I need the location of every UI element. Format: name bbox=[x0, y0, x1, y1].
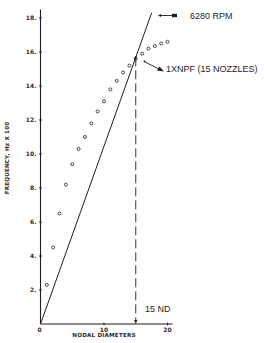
data-points bbox=[45, 40, 169, 286]
y-tick-label: 2. bbox=[30, 286, 36, 293]
rpm-arrow-icon bbox=[158, 14, 177, 17]
data-point-circle bbox=[122, 71, 125, 74]
y-axis-title: FREQUENCY, Hz X 100 bbox=[4, 122, 10, 195]
y-tick-label: 8. bbox=[30, 184, 36, 191]
data-point-circle bbox=[141, 52, 144, 55]
data-point-circle bbox=[115, 79, 118, 82]
y-tick-label: 18. bbox=[26, 14, 37, 21]
data-point-circle bbox=[83, 136, 86, 139]
nd-arrowhead-icon bbox=[134, 320, 137, 324]
y-tick-label: 14. bbox=[26, 82, 37, 89]
y-tick-label: 12. bbox=[26, 116, 37, 123]
campbell-diagram: 2.4.6.8.10.12.14.16.18.01020 6280 RPM 1X… bbox=[0, 0, 264, 343]
excitation-lines bbox=[41, 13, 152, 324]
data-point-circle bbox=[71, 163, 74, 166]
data-point-circle bbox=[153, 45, 156, 48]
intersection-point bbox=[135, 56, 137, 58]
rpm-line bbox=[41, 13, 152, 324]
rpm-label: 6280 RPM bbox=[190, 11, 233, 21]
y-tick-label: 16. bbox=[26, 48, 37, 55]
data-point-circle bbox=[77, 147, 80, 150]
data-point-circle bbox=[45, 283, 48, 286]
x-axis-title: NODAL DIAMETERS bbox=[72, 332, 135, 338]
data-point-circle bbox=[64, 183, 67, 186]
x-tick-label: 20 bbox=[163, 326, 171, 333]
data-point-circle bbox=[147, 47, 150, 50]
y-tick-label: 10. bbox=[26, 150, 37, 157]
data-point-circle bbox=[90, 122, 93, 125]
data-point-circle bbox=[128, 64, 131, 67]
npf-arrow-icon bbox=[144, 61, 164, 72]
data-point-circle bbox=[160, 42, 163, 45]
npf-label: 1XNPF (15 NOZZLES) bbox=[166, 64, 258, 74]
data-point-circle bbox=[58, 212, 61, 215]
data-point-circle bbox=[52, 246, 55, 249]
data-point-circle bbox=[103, 100, 106, 103]
x-tick-label: 0 bbox=[37, 326, 41, 333]
axes bbox=[41, 10, 173, 325]
y-tick-label: 4. bbox=[30, 252, 36, 259]
data-point-circle bbox=[166, 40, 169, 43]
data-point-circle bbox=[96, 110, 99, 113]
y-tick-label: 6. bbox=[30, 218, 36, 225]
data-point-circle bbox=[109, 88, 112, 91]
nd-label: 15 ND bbox=[145, 304, 171, 314]
